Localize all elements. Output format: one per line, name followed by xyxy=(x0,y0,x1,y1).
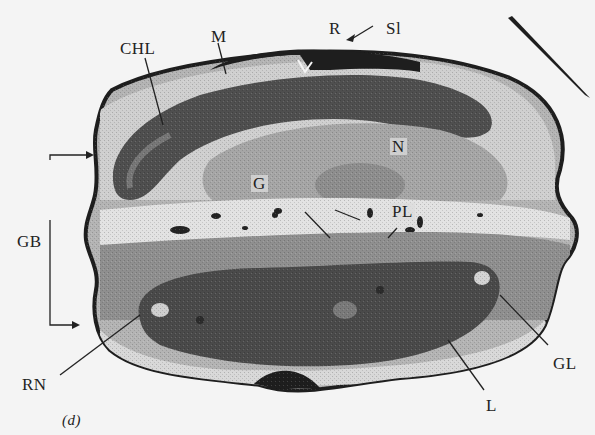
label-sl: Sl xyxy=(386,20,401,37)
label-chloroplast: CHL xyxy=(120,40,156,57)
label-r: R xyxy=(329,20,341,37)
label-rn: RN xyxy=(22,376,47,393)
panel-label: (d) xyxy=(62,413,81,428)
label-golgi: G xyxy=(251,175,268,192)
micrograph-figure: CHL M R Sl N G PL GB RN GL L (d) xyxy=(0,0,595,435)
label-membrane: M xyxy=(211,28,227,45)
label-pl: PL xyxy=(390,203,415,220)
label-nucleus: N xyxy=(390,138,407,155)
label-gl: GL xyxy=(553,355,577,372)
cell-micrograph-image xyxy=(0,0,595,435)
label-l: L xyxy=(486,397,497,414)
label-gb: GB xyxy=(17,233,42,250)
